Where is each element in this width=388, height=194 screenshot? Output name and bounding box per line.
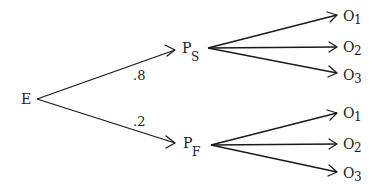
probability-tree-diagram: E .8 .2 P S P F O 1 O 2 O 3 (0, 0, 388, 194)
node-pf-subscript: F (192, 145, 200, 159)
node-pf: P F (183, 135, 200, 159)
probability-label-ps: .8 (133, 68, 145, 83)
outcome-label: O (343, 136, 354, 152)
node-pf-label: P (183, 135, 192, 151)
outcome-ps-o3: O 3 (343, 67, 362, 86)
outcome-label: O (343, 105, 354, 121)
outcome-subscript: 1 (354, 110, 362, 124)
node-ps: P S (182, 40, 199, 64)
edges-ps-outcomes (208, 12, 337, 77)
node-ps-label: P (182, 40, 191, 56)
probability-label-pf: .2 (133, 114, 145, 129)
outcome-pf-o1: O 1 (343, 105, 362, 124)
outcome-ps-o1: O 1 (343, 8, 362, 27)
edge-e-to-ps (37, 45, 175, 99)
outcome-pf-o3: O 3 (343, 165, 362, 184)
node-ps-subscript: S (191, 50, 199, 64)
outcome-subscript: 3 (354, 170, 362, 184)
outcome-subscript: 1 (354, 13, 362, 27)
outcome-label: O (343, 67, 354, 83)
edges-pf-outcomes (211, 110, 337, 176)
edge-e-to-pf (37, 99, 175, 148)
outcome-label: O (343, 39, 354, 55)
outcome-subscript: 2 (354, 141, 362, 155)
root-node-e: E (21, 91, 31, 107)
outcome-subscript: 2 (354, 44, 362, 58)
outcome-ps-o2: O 2 (343, 39, 362, 58)
outcome-subscript: 3 (354, 72, 362, 86)
outcome-label: O (343, 8, 354, 24)
outcome-label: O (343, 165, 354, 181)
outcome-pf-o2: O 2 (343, 136, 362, 155)
arrowhead-icon (165, 45, 175, 56)
